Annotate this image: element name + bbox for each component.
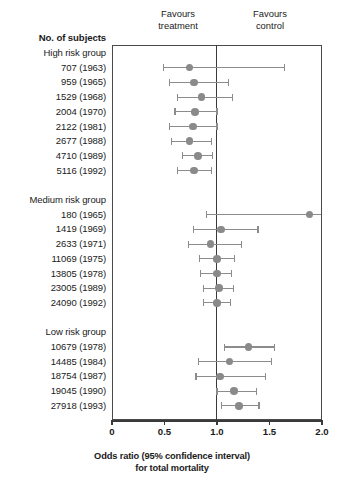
confidence-interval-cap-lower [171, 138, 172, 145]
confidence-interval-cap-lower [198, 358, 199, 365]
study-label: 2633 (1971) [0, 238, 106, 249]
confidence-interval-cap-upper [216, 108, 217, 115]
x-tick-0 [111, 420, 112, 425]
confidence-interval-cap-upper [230, 299, 231, 306]
odds-ratio-point [191, 108, 199, 116]
confidence-interval-cap-upper [234, 255, 235, 262]
confidence-interval-cap-upper [211, 138, 212, 145]
confidence-interval-cap-lower [200, 270, 201, 277]
confidence-interval-cap-lower [177, 94, 178, 101]
x-tick-0.5 [164, 420, 165, 425]
confidence-interval-line [189, 244, 242, 245]
odds-ratio-point [194, 152, 202, 160]
odds-ratio-point [213, 299, 221, 307]
confidence-interval-cap-upper [265, 373, 266, 380]
plot-frame [112, 45, 322, 420]
confidence-interval-cap-lower [163, 64, 164, 71]
study-label: 10679 (1978) [0, 341, 106, 352]
confidence-interval-cap-upper [257, 226, 258, 233]
x-tick-label-0.5: 0.5 [145, 426, 185, 437]
confidence-interval-cap-upper [271, 358, 272, 365]
confidence-interval-cap-lower [195, 373, 196, 380]
confidence-interval-cap-lower [203, 299, 204, 306]
confidence-interval-cap-lower [199, 255, 200, 262]
confidence-interval-cap-lower [216, 388, 217, 395]
odds-ratio-point [245, 343, 253, 351]
null-effect-line [216, 45, 217, 420]
odds-ratio-point [216, 373, 224, 381]
odds-ratio-point [190, 167, 198, 175]
odds-ratio-point [217, 226, 225, 234]
study-label: 959 (1965) [0, 76, 106, 87]
x-tick-1.5 [269, 420, 270, 425]
confidence-interval-cap-lower [206, 211, 207, 218]
confidence-interval-cap-lower [177, 167, 178, 174]
study-label: 18754 (1987) [0, 370, 106, 381]
confidence-interval-cap-lower [224, 344, 225, 351]
confidence-interval-cap-lower [174, 108, 175, 115]
study-label: 5116 (1992) [0, 165, 106, 176]
confidence-interval-cap-upper [284, 64, 285, 71]
confidence-interval-cap-upper [231, 270, 232, 277]
study-label: 13805 (1978) [0, 268, 106, 279]
odds-ratio-point [235, 402, 243, 410]
odds-ratio-point [189, 123, 197, 131]
confidence-interval-line [196, 376, 265, 377]
study-label: 2004 (1970) [0, 106, 106, 117]
confidence-interval-line [207, 214, 322, 215]
confidence-interval-cap-upper [258, 402, 259, 409]
group-label-low-risk-group: Low risk group [0, 326, 106, 337]
confidence-interval-cap-upper [233, 285, 234, 292]
confidence-interval-cap-upper [216, 123, 217, 130]
odds-ratio-point [215, 284, 223, 292]
confidence-interval-line [163, 67, 284, 68]
confidence-interval-cap-upper [241, 241, 242, 248]
confidence-interval-cap-upper [211, 167, 212, 174]
study-label: 24090 (1992) [0, 297, 106, 308]
confidence-interval-cap-upper [232, 94, 233, 101]
x-tick-label-2.0: 2.0 [302, 426, 342, 437]
study-label: 27918 (1993) [0, 400, 106, 411]
group-label-medium-risk-group: Medium risk group [0, 194, 106, 205]
study-label: 14485 (1984) [0, 356, 106, 367]
confidence-interval-line [170, 82, 229, 83]
x-axis-label: Odds ratio (95% confidence interval) for… [52, 450, 292, 474]
study-label: 1419 (1969) [0, 223, 106, 234]
confidence-interval-cap-lower [193, 226, 194, 233]
study-label: 19045 (1990) [0, 385, 106, 396]
confidence-interval-cap-upper [256, 388, 257, 395]
odds-ratio-point [198, 93, 206, 101]
study-label: 4710 (1989) [0, 150, 106, 161]
study-label: 23005 (1989) [0, 282, 106, 293]
forest-plot-figure: Favours treatment Favours control No. of… [0, 0, 344, 488]
favours-control-label: Favours control [228, 8, 312, 31]
odds-ratio-point [213, 270, 221, 278]
favours-treatment-label: Favours treatment [136, 8, 220, 31]
confidence-interval-cap-lower [169, 123, 170, 130]
confidence-interval-line [194, 229, 258, 230]
study-label: 2677 (1988) [0, 135, 106, 146]
x-tick-1.0 [216, 420, 217, 425]
study-label: 1529 (1968) [0, 91, 106, 102]
group-label-high-risk-group: High risk group [0, 47, 106, 58]
study-label: 11069 (1975) [0, 253, 106, 264]
confidence-interval-cap-upper [228, 79, 229, 86]
confidence-interval-line [198, 361, 272, 362]
confidence-interval-cap-lower [188, 241, 189, 248]
study-label: 2122 (1981) [0, 121, 106, 132]
x-tick-2.0 [321, 420, 322, 425]
x-tick-label-1.5: 1.5 [250, 426, 290, 437]
x-tick-label-0: 0 [92, 426, 132, 437]
x-tick-label-1.0: 1.0 [197, 426, 237, 437]
confidence-interval-cap-lower [203, 285, 204, 292]
odds-ratio-point [213, 255, 221, 263]
confidence-interval-cap-lower [182, 152, 183, 159]
confidence-interval-cap-lower [221, 402, 222, 409]
odds-ratio-point [190, 79, 198, 87]
confidence-interval-cap-upper [274, 344, 275, 351]
study-label: 707 (1963) [0, 62, 106, 73]
study-label: 180 (1965) [0, 209, 106, 220]
column-header-no-of-subjects: No. of subjects [0, 32, 106, 43]
odds-ratio-point [230, 387, 238, 395]
confidence-interval-cap-upper [212, 152, 213, 159]
